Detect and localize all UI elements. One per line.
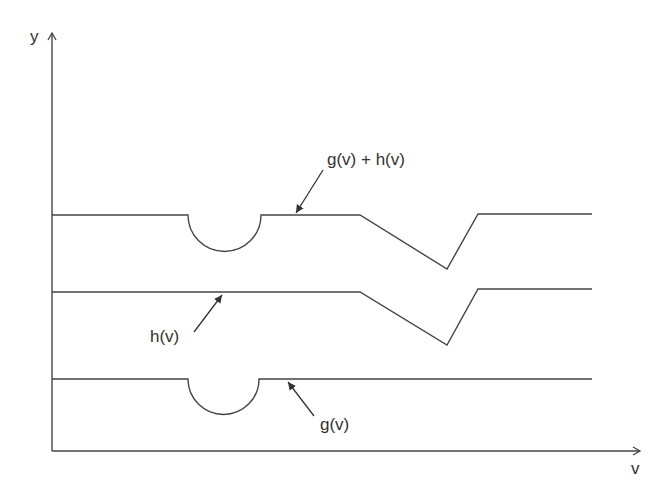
arrow-g [288,382,314,416]
label-g: g(v) [320,415,349,434]
label-h: h(v) [150,327,179,346]
curve-g-plus-h [52,214,592,269]
label-g-plus-h: g(v) + h(v) [327,150,405,169]
arrow-g-plus-h [296,170,323,213]
y-axis-label: y [30,27,39,46]
arrow-h [194,295,222,332]
curve-h [52,289,592,345]
x-axis-label: v [631,459,640,478]
curve-g [52,379,592,415]
diagram: y v g(v) + h(v) h(v) g(v) [0,0,665,494]
